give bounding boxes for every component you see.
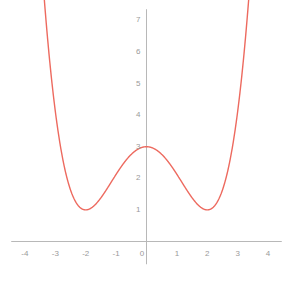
chart-container: -4-3-2-101234 1234567 — [0, 0, 295, 281]
x-tick-label: -3 — [52, 250, 59, 258]
x-tick-label: -2 — [82, 250, 89, 258]
y-tick-label: 2 — [136, 174, 140, 182]
x-tick-label: 0 — [140, 250, 144, 258]
axes-group — [11, 9, 282, 264]
x-tick-label: -1 — [113, 250, 120, 258]
y-tick-label: 7 — [136, 16, 140, 24]
x-tick-label: 4 — [266, 250, 270, 258]
y-tick-label: 3 — [136, 143, 140, 151]
y-tick-label: 1 — [136, 206, 140, 214]
y-tick-label: 5 — [136, 80, 140, 88]
x-tick-label: 2 — [205, 250, 209, 258]
x-tick-label: 1 — [175, 250, 179, 258]
y-tick-label: 6 — [136, 48, 140, 56]
x-tick-label: 3 — [235, 250, 239, 258]
plot-area — [0, 0, 295, 281]
y-tick-label: 4 — [136, 111, 140, 119]
x-tick-label: -4 — [21, 250, 28, 258]
